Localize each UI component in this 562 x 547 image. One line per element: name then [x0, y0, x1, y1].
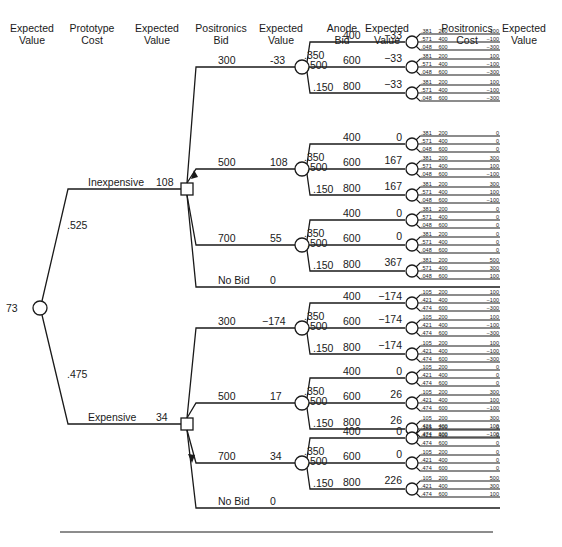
anode-prob: .500: [307, 320, 327, 332]
leaf-expected-value: 100: [490, 189, 499, 195]
anode-prob: .500: [307, 395, 327, 407]
positronics-expected-value: -33: [270, 54, 285, 66]
anode-expected-value: 26: [390, 388, 402, 400]
positronics-cost-value: 400: [438, 397, 447, 403]
anode-expected-value: 0: [396, 425, 402, 437]
leaf-expected-value: 300: [490, 415, 499, 421]
anode-expected-value: −33: [384, 29, 402, 41]
leaf-expected-value: 100: [490, 397, 499, 403]
anode-prob: .500: [307, 59, 327, 71]
leaf-expected-value: 0: [496, 364, 499, 370]
positronics-expected-value: 34: [270, 450, 282, 462]
anode-bid-label: 400: [343, 365, 361, 377]
leaf-expected-value: −100: [487, 61, 499, 67]
cost-probability: .048: [421, 171, 432, 177]
positronics-cost-value: 200: [438, 314, 447, 320]
cost-probability: .105: [421, 449, 432, 455]
anode-expected-value: −174: [378, 313, 402, 325]
anode-expected-value: −174: [378, 339, 402, 351]
cost-probability: .474: [421, 440, 432, 446]
cost-probability: .474: [421, 380, 432, 386]
positronics-cost-value: 600: [438, 273, 447, 279]
anode-bid-label: 600: [343, 315, 361, 327]
leaf-expected-value: −100: [487, 348, 499, 354]
anode-bid-label: 400: [343, 425, 361, 437]
positronics-cost-value: 200: [438, 130, 447, 136]
positronics-cost-value: 400: [438, 163, 447, 169]
cost-probability: .421: [421, 397, 432, 403]
positronics-cost-value: 600: [438, 95, 447, 101]
cost-probability: .571: [421, 138, 432, 144]
cost-probability: .048: [421, 95, 432, 101]
leaf-expected-value: −300: [487, 305, 499, 311]
cost-probability: .105: [421, 314, 432, 320]
leaf-expected-value: 300: [490, 389, 499, 395]
cost-probability: .105: [421, 289, 432, 295]
cost-probability: .571: [421, 61, 432, 67]
cost-probability: .474: [421, 356, 432, 362]
cost-probability: .381: [421, 155, 432, 161]
cost-probability: .571: [421, 189, 432, 195]
leaf-expected-value: 100: [490, 289, 499, 295]
cost-probability: .381: [421, 28, 432, 34]
positronics-bid-label: No Bid: [218, 495, 250, 507]
positronics-bid-label: 300: [218, 54, 236, 66]
leaf-expected-value: 0: [496, 231, 499, 237]
cost-probability: .048: [421, 44, 432, 50]
cost-probability: .421: [421, 457, 432, 463]
leaf-expected-value: 0: [496, 457, 499, 463]
cost-probability: .421: [421, 348, 432, 354]
cost-probability: .048: [421, 273, 432, 279]
cost-probability: .474: [421, 465, 432, 471]
leaf-expected-value: 0: [496, 372, 499, 378]
leaf-expected-value: 0: [496, 247, 499, 253]
anode-expected-value: −174: [378, 290, 402, 302]
leaf-expected-value: 0: [496, 449, 499, 455]
optimal-path-arrow-icon: [188, 454, 195, 463]
anode-bid-label: 400: [343, 207, 361, 219]
anode-prob: .150: [313, 342, 333, 354]
prototype-cost-label: Expensive: [88, 411, 136, 423]
anode-expected-value: 0: [396, 365, 402, 377]
positronics-cost-value: 200: [438, 181, 447, 187]
anode-expected-value: 0: [396, 230, 402, 242]
positronics-cost-value: 600: [438, 197, 447, 203]
leaf-expected-value: −100: [487, 297, 499, 303]
anode-bid-label: 800: [343, 182, 361, 194]
positronics-cost-value: 600: [438, 440, 447, 446]
leaf-expected-value: 300: [490, 181, 499, 187]
positronics-bid-label: 500: [218, 390, 236, 402]
positronics-cost-value: 600: [438, 69, 447, 75]
cost-probability: .474: [421, 305, 432, 311]
leaf-expected-value: −100: [487, 87, 499, 93]
cost-probability: .048: [421, 222, 432, 228]
cost-probability: .421: [421, 432, 432, 438]
positronics-cost-value: 600: [438, 146, 447, 152]
leaf-expected-value: 0: [496, 146, 499, 152]
prob-expensive: .475: [67, 368, 87, 380]
positronics-cost-value: 200: [438, 231, 447, 237]
leaf-expected-value: 0: [496, 222, 499, 228]
anode-expected-value: 0: [396, 207, 402, 219]
cost-probability: .105: [421, 424, 432, 430]
positronics-bid-label: 500: [218, 156, 236, 168]
leaf-expected-value: 100: [490, 28, 499, 34]
leaf-expected-value: 0: [496, 239, 499, 245]
leaf-expected-value: 500: [490, 257, 499, 263]
positronics-bid-label: 700: [218, 450, 236, 462]
positronics-bid-label: 700: [218, 232, 236, 244]
cost-probability: .381: [421, 53, 432, 59]
cost-probability: .381: [421, 257, 432, 263]
tree-lines: [0, 0, 562, 547]
positronics-expected-value: 55: [270, 232, 282, 244]
positronics-cost-value: 600: [438, 247, 447, 253]
prototype-expected-value: 34: [156, 411, 168, 423]
anode-bid-label: 600: [343, 390, 361, 402]
cost-probability: .048: [421, 69, 432, 75]
positronics-cost-value: 400: [438, 138, 447, 144]
positronics-cost-value: 400: [438, 214, 447, 220]
cost-probability: .381: [421, 130, 432, 136]
positronics-cost-value: 200: [438, 364, 447, 370]
column-header: Expected Value: [489, 22, 559, 46]
anode-bid-label: 600: [343, 232, 361, 244]
